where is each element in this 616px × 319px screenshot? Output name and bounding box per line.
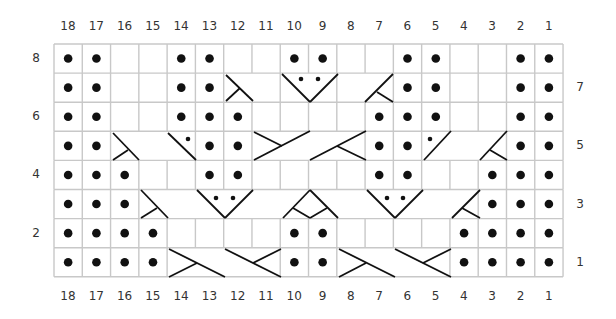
- purl-dot-icon: [92, 171, 101, 180]
- purl-dot-icon: [92, 258, 101, 267]
- purl-dot-icon: [460, 229, 469, 238]
- purl-dot-icon: [92, 54, 101, 63]
- purl-dot-icon: [545, 171, 554, 180]
- purl-dot-icon: [92, 142, 101, 151]
- small-dot-icon: [316, 77, 321, 82]
- purl-dot-icon: [488, 171, 497, 180]
- purl-dot-icon: [149, 229, 158, 238]
- purl-dot-icon: [205, 171, 214, 180]
- purl-dot-icon: [64, 54, 73, 63]
- cable-line: [113, 133, 139, 160]
- purl-dot-icon: [403, 54, 412, 63]
- cable-line: [169, 263, 197, 277]
- cable-line: [141, 190, 168, 218]
- cable-line: [253, 249, 281, 263]
- purl-dot-icon: [545, 258, 554, 267]
- purl-dot-icon: [120, 200, 129, 209]
- purl-dot-icon: [403, 112, 412, 121]
- purl-dot-icon: [375, 171, 384, 180]
- purl-dot-icon: [375, 112, 384, 121]
- cable-line: [226, 88, 240, 101]
- purl-dot-icon: [177, 83, 186, 92]
- purl-dot-icon: [177, 54, 186, 63]
- cable-line: [452, 190, 480, 218]
- cable-line: [197, 190, 225, 218]
- purl-dot-icon: [120, 229, 129, 238]
- purl-dot-icon: [149, 258, 158, 267]
- purl-dot-icon: [64, 171, 73, 180]
- purl-dot-icon: [460, 258, 469, 267]
- purl-dot-icon: [403, 142, 412, 151]
- purl-dot-icon: [177, 112, 186, 121]
- cable-line: [310, 208, 327, 218]
- purl-dot-icon: [290, 229, 299, 238]
- small-dot-icon: [186, 137, 191, 142]
- cable-line: [367, 190, 395, 218]
- cable-line: [490, 150, 507, 160]
- purl-dot-icon: [92, 229, 101, 238]
- cable-line: [423, 249, 451, 263]
- purl-dot-icon: [120, 171, 129, 180]
- purl-dot-icon: [234, 171, 243, 180]
- cable-line: [282, 74, 310, 102]
- purl-dot-icon: [431, 112, 440, 121]
- small-dot-icon: [385, 196, 390, 201]
- purl-dot-icon: [64, 142, 73, 151]
- cable-line: [254, 132, 282, 146]
- purl-dot-icon: [64, 229, 73, 238]
- cable-line: [225, 190, 253, 218]
- purl-dot-icon: [488, 258, 497, 267]
- purl-dot-icon: [318, 229, 327, 238]
- purl-dot-icon: [516, 229, 525, 238]
- purl-dot-icon: [64, 258, 73, 267]
- purl-dot-icon: [431, 54, 440, 63]
- purl-dot-icon: [545, 142, 554, 151]
- purl-dot-icon: [545, 200, 554, 209]
- cable-line: [339, 263, 366, 277]
- purl-dot-icon: [205, 112, 214, 121]
- cable-line: [377, 92, 393, 102]
- purl-dot-icon: [64, 83, 73, 92]
- purl-dot-icon: [64, 112, 73, 121]
- purl-dot-icon: [318, 258, 327, 267]
- purl-dot-icon: [516, 258, 525, 267]
- cable-line: [141, 208, 157, 218]
- purl-dot-icon: [92, 112, 101, 121]
- purl-dot-icon: [290, 54, 299, 63]
- purl-dot-icon: [516, 171, 525, 180]
- purl-dot-icon: [545, 54, 554, 63]
- purl-dot-icon: [431, 83, 440, 92]
- purl-dot-icon: [92, 83, 101, 92]
- purl-dot-icon: [516, 112, 525, 121]
- cable-line: [283, 190, 310, 218]
- purl-dot-icon: [64, 200, 73, 209]
- purl-dot-icon: [516, 83, 525, 92]
- cable-line: [293, 208, 310, 218]
- small-dot-icon: [401, 196, 406, 201]
- knitting-chart-grid: [0, 0, 616, 319]
- purl-dot-icon: [205, 142, 214, 151]
- purl-dot-icon: [488, 200, 497, 209]
- cable-line: [480, 131, 507, 160]
- purl-dot-icon: [92, 200, 101, 209]
- small-dot-icon: [299, 77, 304, 82]
- purl-dot-icon: [488, 229, 497, 238]
- purl-dot-icon: [516, 200, 525, 209]
- small-dot-icon: [231, 196, 236, 201]
- purl-dot-icon: [318, 54, 327, 63]
- purl-dot-icon: [205, 83, 214, 92]
- small-dot-icon: [428, 137, 433, 142]
- cable-line: [395, 190, 423, 218]
- purl-dot-icon: [545, 229, 554, 238]
- cable-line: [365, 74, 393, 102]
- cable-line: [310, 190, 338, 218]
- purl-dot-icon: [375, 142, 384, 151]
- cable-line: [424, 131, 451, 160]
- purl-dot-icon: [545, 112, 554, 121]
- purl-dot-icon: [545, 83, 554, 92]
- purl-dot-icon: [516, 54, 525, 63]
- cable-line: [168, 133, 196, 160]
- purl-dot-icon: [403, 171, 412, 180]
- purl-dot-icon: [205, 54, 214, 63]
- purl-dot-icon: [234, 112, 243, 121]
